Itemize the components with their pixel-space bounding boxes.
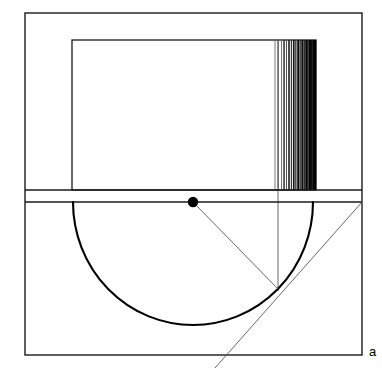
gradient-stripe-12 — [303, 40, 305, 190]
gradient-stripe-4 — [286, 40, 287, 190]
gradient-stripe-8 — [295, 40, 296, 190]
gradient-stripe-9 — [297, 40, 299, 190]
center-point — [188, 197, 198, 207]
gradient-stripe-11 — [301, 40, 303, 190]
gradient-stripe-3 — [283, 40, 285, 190]
gradient-stripe-14 — [307, 40, 309, 190]
gradient-stripe-10 — [299, 40, 300, 190]
gradient-stripe-7 — [293, 40, 295, 190]
gradient-stripe-2 — [281, 40, 282, 190]
gradient-stripe-0 — [275, 40, 276, 190]
geometric-diagram — [0, 0, 382, 375]
gradient-stripe-6 — [291, 40, 292, 190]
gradient-stripe-5 — [288, 40, 290, 190]
canvas-background — [0, 0, 382, 375]
gradient-stripe-18 — [314, 40, 316, 190]
figure-root: a — [0, 0, 382, 375]
gradient-stripe-13 — [305, 40, 307, 190]
figure-caption-label: a — [369, 345, 376, 358]
